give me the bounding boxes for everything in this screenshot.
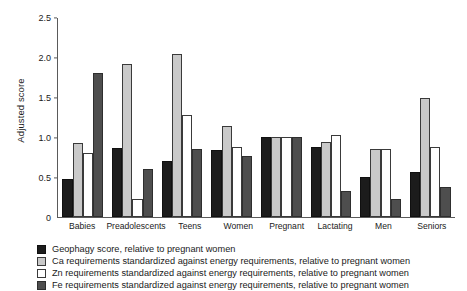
legend-item: Geophagy score, relative to pregnant wom… [37,243,467,255]
bar [311,147,321,217]
bar [222,126,232,216]
bar [391,199,401,217]
legend-label: Geophagy score, relative to pregnant wom… [52,244,235,254]
bar [341,191,351,217]
bar-group [257,18,307,217]
bar-group [58,18,108,217]
y-axis-tick-label: 0 [46,213,57,223]
y-axis-tick-mark [54,17,58,18]
bar [62,179,72,217]
bar [430,147,440,217]
bar [211,150,221,217]
x-axis-tick-label: Teens [166,221,214,231]
bar-group [108,18,158,217]
bar [112,148,122,217]
x-axis-tick-label: Lactating [311,221,359,231]
bar-group [207,18,257,217]
bar [132,199,142,217]
bar [410,172,420,217]
bar [122,64,132,217]
bar [232,147,242,217]
x-axis-line [57,217,455,218]
legend-label: Zn requirements standardized against ene… [52,268,409,278]
bar [292,137,302,217]
plot-area: 00.51.01.52.02.5 [57,18,455,218]
legend-swatch-icon [37,269,46,278]
x-axis-tick-label: Seniors [408,221,456,231]
x-axis-tick-label: Pregnant [262,221,310,231]
x-axis-tick-label: Men [359,221,407,231]
legend-swatch-icon [37,245,46,254]
chart-legend: Geophagy score, relative to pregnant wom… [37,243,467,291]
legend-swatch-icon [37,281,46,290]
bar [182,115,192,217]
bar [321,142,331,216]
bar [370,149,380,217]
bar [331,135,341,217]
y-axis-title-text: Adjusted score [15,78,26,142]
bar-group [157,18,207,217]
bar [242,156,252,217]
y-axis-tick-mark [54,177,58,178]
legend-item: Fe requirements standardized against ene… [37,279,467,291]
bar [83,153,93,217]
bar [420,98,430,216]
bar [440,187,450,217]
bar [281,137,291,217]
legend-label: Ca requirements standardized against ene… [52,256,410,266]
y-axis-tick-mark [54,57,58,58]
x-axis-tick-label: Women [214,221,262,231]
bar [381,149,391,217]
bar [93,73,103,217]
y-axis-title: Adjusted score [10,0,30,220]
bar-group [306,18,356,217]
bar [192,149,202,217]
bar [143,169,153,217]
x-axis-tick-labels: BabiesPreadolescentsTeensWomenPregnantLa… [58,221,456,231]
bar-groups [58,18,455,217]
bar [360,177,370,217]
bar [271,137,281,217]
x-axis-tick-label: Babies [58,221,106,231]
legend-item: Zn requirements standardized against ene… [37,267,467,279]
bar-group [405,18,455,217]
legend-item: Ca requirements standardized against ene… [37,255,467,267]
y-axis-tick-mark [54,97,58,98]
legend-swatch-icon [37,257,46,266]
bar [261,137,271,217]
bar-group [356,18,406,217]
y-axis-tick-mark [54,137,58,138]
bar [162,161,172,217]
bar [172,54,182,216]
bar-chart-figure: Adjusted score 00.51.01.52.02.5 BabiesPr… [0,0,467,291]
legend-label: Fe requirements standardized against ene… [52,280,409,290]
bar [73,143,83,217]
x-axis-tick-label: Preadolescents [106,221,165,231]
